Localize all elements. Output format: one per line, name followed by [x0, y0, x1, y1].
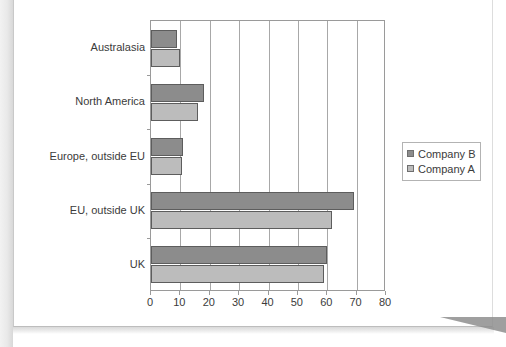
category-axis-tick — [147, 238, 151, 239]
category-label-north-america: North America — [75, 95, 145, 107]
category-label-eu-outside-uk: EU, outside UK — [70, 204, 145, 216]
value-axis-tick-10 — [179, 291, 180, 295]
legend-label: Company B — [418, 148, 475, 160]
category-band — [151, 21, 384, 75]
category-axis-tick — [147, 75, 151, 76]
value-axis-tick-20 — [209, 291, 210, 295]
bar-company-b[interactable] — [151, 138, 183, 156]
bar-company-b[interactable] — [151, 246, 327, 264]
value-axis-tick-60 — [326, 291, 327, 295]
value-axis-label-80: 80 — [373, 296, 397, 309]
value-axis-tick-50 — [297, 291, 298, 295]
bar-company-b[interactable] — [151, 84, 204, 102]
legend-swatch-company-b-icon — [407, 150, 414, 157]
value-axis-tick-0 — [150, 291, 151, 295]
category-band — [151, 184, 384, 238]
bar-chart: AustralasiaNorth AmericaEurope, outside … — [0, 0, 506, 347]
value-axis-label-60: 60 — [314, 296, 338, 309]
category-label-australasia: Australasia — [91, 41, 145, 53]
category-band — [151, 238, 384, 292]
value-axis-label-50: 50 — [285, 296, 309, 309]
category-band — [151, 129, 384, 183]
value-axis-tick-40 — [268, 291, 269, 295]
bar-company-b[interactable] — [151, 192, 354, 210]
plot-area — [150, 20, 385, 291]
value-axis-tick-80 — [385, 291, 386, 295]
category-axis-tick — [147, 184, 151, 185]
category-label-uk: UK — [130, 258, 145, 270]
value-axis-label-10: 10 — [167, 296, 191, 309]
category-axis-tick — [147, 129, 151, 130]
value-axis-label-40: 40 — [256, 296, 280, 309]
category-axis-labels: AustralasiaNorth AmericaEurope, outside … — [0, 0, 145, 291]
category-label-europe-outside-eu: Europe, outside EU — [50, 150, 145, 162]
chart-legend: Company BCompany A — [402, 142, 481, 181]
value-axis-label-20: 20 — [197, 296, 221, 309]
category-band — [151, 75, 384, 129]
value-axis-label-30: 30 — [226, 296, 250, 309]
value-axis-label-70: 70 — [344, 296, 368, 309]
bar-company-a[interactable] — [151, 211, 332, 229]
value-axis-tick-30 — [238, 291, 239, 295]
legend-swatch-company-a-icon — [407, 165, 414, 172]
legend-item-company-b[interactable]: Company B — [407, 146, 475, 161]
value-axis-tick-70 — [356, 291, 357, 295]
legend-item-company-a[interactable]: Company A — [407, 161, 475, 176]
bar-company-a[interactable] — [151, 103, 198, 121]
bar-company-a[interactable] — [151, 49, 180, 67]
legend-label: Company A — [418, 163, 475, 175]
bar-company-a[interactable] — [151, 157, 182, 175]
bar-company-a[interactable] — [151, 265, 324, 283]
bar-company-b[interactable] — [151, 30, 177, 48]
value-axis-label-0: 0 — [138, 296, 162, 309]
